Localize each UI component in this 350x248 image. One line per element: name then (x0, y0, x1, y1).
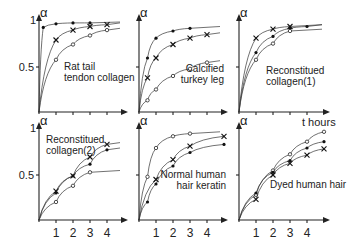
cross-marker-icon (154, 56, 159, 61)
circle-marker-icon (171, 74, 174, 77)
cross-marker-icon (188, 144, 193, 149)
circle-marker-icon (71, 184, 74, 187)
y-tick-label: 1 (30, 122, 36, 134)
panel-label: Reconstitued (46, 134, 104, 145)
dot-marker-icon (154, 182, 157, 185)
y-tick-label: 0.5 (19, 169, 34, 181)
circle-marker-icon (254, 58, 257, 61)
chart-panel-1: α0.51Rat tailtendon collagen (19, 5, 135, 115)
circle-marker-icon (188, 132, 191, 135)
x-tick-label: 3 (187, 226, 194, 240)
chart-panel-5: α1234Normal humanhair keratin (136, 113, 228, 240)
cross-marker-icon (171, 157, 176, 162)
circle-marker-icon (88, 34, 91, 37)
circle-marker-icon (54, 200, 57, 203)
alpha-label: α (240, 5, 248, 20)
panel-label: Reconstitued (266, 65, 324, 76)
panel-label: collagen(2) (46, 145, 95, 156)
circle-marker-icon (71, 43, 74, 46)
chart-panel-2: αCalcifiedturkey leg (136, 5, 228, 115)
dot-marker-icon (42, 26, 45, 29)
circle-marker-icon (88, 171, 91, 174)
chart-panel-6: α1234Dyed human hair (236, 113, 347, 240)
dot-marker-icon (71, 21, 74, 24)
dot-marker-icon (54, 22, 57, 25)
cross-marker-icon (171, 42, 176, 47)
dot-marker-icon (171, 164, 174, 167)
x-axis-label: t hours (302, 116, 336, 128)
x-tick-label: 1 (53, 226, 60, 240)
dot-marker-icon (305, 146, 308, 149)
dot-marker-icon (305, 25, 308, 28)
dot-marker-icon (254, 51, 257, 54)
x-axis-arrow-icon (121, 109, 128, 115)
x-axis-arrow-icon (221, 217, 228, 223)
circle-marker-icon (288, 29, 291, 32)
x-axis-arrow-icon (323, 109, 330, 115)
dot-marker-icon (146, 56, 149, 59)
dot-marker-icon (54, 191, 57, 194)
alpha-label: α (40, 113, 48, 128)
cross-marker-icon (254, 36, 259, 41)
panel-label: tendon collagen (64, 72, 135, 83)
dot-marker-icon (254, 191, 257, 194)
cross-marker-icon (54, 38, 59, 43)
dot-marker-icon (171, 29, 174, 32)
circle-marker-icon (305, 140, 308, 143)
x-tick-label: 2 (270, 226, 277, 240)
circle-marker-icon (154, 146, 157, 149)
alpha-label: α (140, 5, 148, 20)
figure: α0.51Rat tailtendon collagenαCalcifiedtu… (0, 0, 350, 248)
x-tick-label: 1 (253, 226, 260, 240)
dot-marker-icon (271, 35, 274, 38)
panel-label: turkey leg (181, 74, 224, 85)
panel-label: Rat tail (64, 61, 95, 72)
panel-label: collagen(1) (266, 76, 315, 87)
circle-marker-icon (146, 99, 149, 102)
circle-marker-icon (146, 175, 149, 178)
x-tick-label: 3 (87, 226, 94, 240)
panel-label: Calcified (186, 63, 224, 74)
x-tick-label: 4 (304, 226, 311, 240)
cross-marker-icon (71, 28, 76, 33)
dot-marker-icon (105, 148, 108, 151)
x-axis-arrow-icon (121, 217, 128, 223)
circle-marker-icon (105, 28, 108, 31)
chart-panel-4: α0.511234Reconstituedcollagen(2) (19, 113, 128, 240)
alpha-label: α (140, 113, 148, 128)
dot-marker-icon (188, 151, 191, 154)
dot-marker-icon (188, 27, 191, 30)
x-tick-label: 2 (170, 226, 177, 240)
circle-marker-icon (271, 42, 274, 45)
alpha-label: α (40, 5, 48, 20)
panel-label: Dyed human hair (270, 179, 347, 190)
x-tick-label: 2 (70, 226, 77, 240)
dot-marker-icon (88, 21, 91, 24)
alpha-label: α (240, 113, 248, 128)
dot-marker-icon (146, 200, 149, 203)
x-tick-label: 4 (104, 226, 111, 240)
y-tick-label: 1 (30, 14, 36, 26)
cross-marker-icon (254, 197, 259, 202)
curve-dot (39, 148, 120, 220)
dot-marker-icon (222, 143, 225, 146)
panel-label: hair keratin (177, 180, 226, 191)
dot-marker-icon (88, 163, 91, 166)
circle-marker-icon (54, 58, 57, 61)
cross-marker-icon (271, 27, 276, 32)
x-axis-arrow-icon (221, 109, 228, 115)
circle-marker-icon (171, 135, 174, 138)
x-tick-label: 1 (153, 226, 160, 240)
y-tick-label: 0.5 (19, 61, 34, 73)
dot-marker-icon (322, 140, 325, 143)
dot-marker-icon (154, 37, 157, 40)
x-axis-arrow-icon (323, 217, 330, 223)
x-tick-label: 4 (204, 226, 211, 240)
circle-marker-icon (322, 130, 325, 133)
dot-marker-icon (71, 174, 74, 177)
circle-marker-icon (288, 153, 291, 156)
circle-marker-icon (154, 88, 157, 91)
chart-panel-3: αt hoursReconstituedcollagen(1) (236, 5, 336, 128)
panel-label: Normal human (160, 169, 226, 180)
x-tick-label: 3 (287, 226, 294, 240)
